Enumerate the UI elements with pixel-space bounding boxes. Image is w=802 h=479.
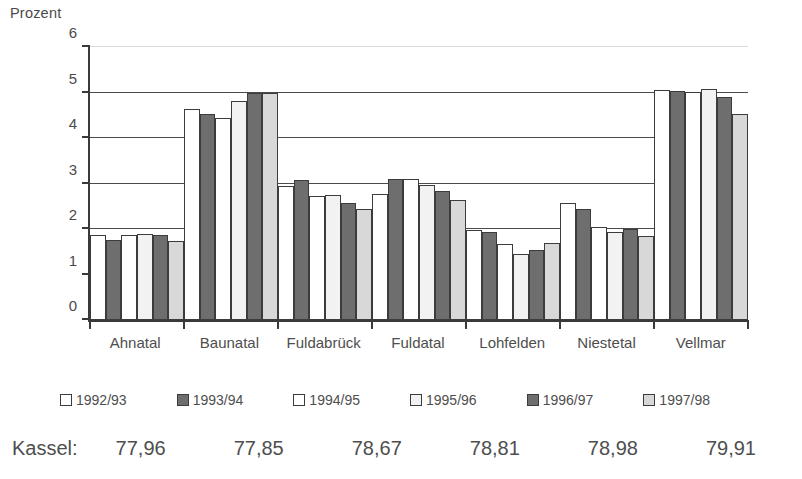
x-tick — [277, 320, 279, 329]
bar — [685, 92, 701, 320]
y-tick-label: 1 — [69, 252, 77, 267]
legend-swatch-icon — [177, 394, 189, 406]
bar — [121, 235, 137, 320]
bar — [435, 191, 451, 320]
kassel-value: 77,96 — [82, 437, 200, 460]
kassel-label: Kassel: — [12, 437, 78, 460]
x-axis-label: Ahnatal — [88, 334, 182, 358]
bar — [168, 241, 184, 320]
bar — [372, 194, 388, 320]
kassel-value: 78,81 — [436, 437, 554, 460]
bar-group — [466, 47, 560, 320]
bar — [294, 180, 310, 320]
y-tick-label: 6 — [69, 25, 77, 40]
bar — [388, 179, 404, 320]
kassel-values: 77,9677,8578,6778,8178,9879,91 — [82, 437, 790, 460]
legend-swatch-icon — [643, 394, 655, 406]
y-axis-label: Prozent — [10, 5, 61, 21]
x-axis-label: Vellmar — [654, 334, 748, 358]
bar — [90, 235, 106, 320]
legend-item[interactable]: 1993/94 — [177, 392, 294, 408]
y-tick-label: 0 — [69, 298, 77, 313]
bar — [106, 240, 122, 320]
x-axis-label: Fuldatal — [371, 334, 465, 358]
x-axis-label: Niestetal — [559, 334, 653, 358]
plot-area: 0123456 — [88, 47, 748, 322]
bar — [200, 114, 216, 320]
x-tick — [371, 320, 373, 329]
bar — [717, 97, 733, 320]
bar — [231, 101, 247, 320]
y-tick — [82, 45, 90, 47]
y-tick-label: 2 — [69, 207, 77, 222]
legend-item[interactable]: 1997/98 — [643, 392, 760, 408]
legend-swatch-icon — [410, 394, 422, 406]
bar — [184, 109, 200, 320]
y-tick-label: 5 — [69, 70, 77, 85]
y-tick — [82, 136, 90, 138]
bar — [576, 209, 592, 320]
bar — [732, 114, 748, 320]
bar — [341, 203, 357, 320]
bar — [513, 254, 529, 320]
legend-label: 1996/97 — [543, 392, 594, 408]
bar — [325, 195, 341, 320]
x-tick — [747, 320, 749, 329]
y-tick-label: 3 — [69, 161, 77, 176]
y-tick — [82, 227, 90, 229]
bar — [607, 232, 623, 320]
bar — [466, 230, 482, 320]
bar-chart: 0123456 — [88, 47, 748, 322]
bar-groups — [90, 47, 748, 320]
kassel-value: 78,67 — [318, 437, 436, 460]
cropped-title-remnant — [0, 0, 802, 7]
y-tick — [82, 273, 90, 275]
bar-group — [278, 47, 372, 320]
legend-label: 1997/98 — [659, 392, 710, 408]
legend-item[interactable]: 1992/93 — [60, 392, 177, 408]
bar — [560, 203, 576, 320]
x-axis-category-labels: AhnatalBaunatalFuldabrückFuldatalLohfeld… — [88, 334, 748, 358]
bar — [638, 236, 654, 320]
bar — [153, 235, 169, 320]
kassel-value: 79,91 — [672, 437, 790, 460]
bar — [450, 200, 466, 320]
legend-label: 1994/95 — [309, 392, 360, 408]
legend-label: 1995/96 — [426, 392, 477, 408]
bar — [497, 244, 513, 320]
bar — [544, 243, 560, 320]
x-tick — [653, 320, 655, 329]
legend-item[interactable]: 1996/97 — [527, 392, 644, 408]
bar — [309, 196, 325, 320]
bar — [701, 89, 717, 320]
chart-legend: 1992/931993/941994/951995/961996/971997/… — [60, 389, 760, 411]
y-tick — [82, 91, 90, 93]
x-tick — [89, 320, 91, 329]
kassel-value: 77,85 — [200, 437, 318, 460]
bar — [403, 179, 419, 321]
bar — [623, 229, 639, 320]
bar — [670, 91, 686, 320]
bar-group — [654, 47, 748, 320]
x-tick — [559, 320, 561, 329]
bar — [247, 93, 263, 321]
legend-label: 1992/93 — [76, 392, 127, 408]
legend-item[interactable]: 1994/95 — [293, 392, 410, 408]
bar — [654, 90, 670, 320]
legend-label: 1993/94 — [193, 392, 244, 408]
bar — [215, 118, 231, 320]
bar — [591, 227, 607, 320]
bar — [529, 250, 545, 320]
kassel-footer-row: Kassel: 77,9677,8578,6778,8178,9879,91 — [12, 432, 790, 464]
bar — [482, 232, 498, 320]
x-axis-label: Baunatal — [182, 334, 276, 358]
bar-group — [184, 47, 278, 320]
bar — [356, 209, 372, 320]
legend-swatch-icon — [527, 394, 539, 406]
legend-swatch-icon — [293, 394, 305, 406]
bar-group — [560, 47, 654, 320]
x-axis-label: Lohfelden — [465, 334, 559, 358]
legend-swatch-icon — [60, 394, 72, 406]
legend-item[interactable]: 1995/96 — [410, 392, 527, 408]
bar — [419, 185, 435, 320]
